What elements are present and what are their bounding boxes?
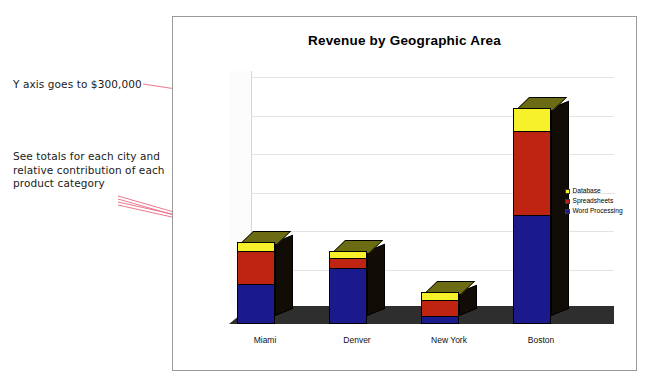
legend-item-spreadsheets[interactable]: Spreadsheets bbox=[565, 197, 623, 206]
bar-new-york[interactable] bbox=[421, 292, 459, 324]
legend-item-database[interactable]: Database bbox=[565, 187, 623, 196]
plot-area bbox=[229, 71, 614, 340]
bar-side-face bbox=[367, 244, 385, 316]
gridline bbox=[251, 77, 614, 78]
category-label-boston: Boston bbox=[528, 335, 554, 345]
bar-segment-database[interactable] bbox=[330, 252, 366, 259]
annotation-y-axis-note: Y axis goes to $300,000 bbox=[13, 78, 163, 92]
bar-front-face bbox=[329, 251, 367, 324]
bar-segment-spreadsheets[interactable] bbox=[238, 252, 274, 285]
legend-label: Spreadsheets bbox=[573, 197, 614, 206]
bar-front-face bbox=[421, 292, 459, 324]
chart-legend: DatabaseSpreadsheetsWord Processing bbox=[565, 187, 623, 217]
bar-segment-spreadsheets[interactable] bbox=[514, 132, 550, 216]
bar-front-face bbox=[237, 242, 275, 324]
legend-label: Word Processing bbox=[573, 207, 623, 216]
chart-frame: Revenue by Geographic Area MiamiDenverNe… bbox=[172, 16, 637, 371]
legend-swatch-icon bbox=[565, 189, 570, 194]
bar-segment-database[interactable] bbox=[238, 243, 274, 253]
legend-label: Database bbox=[573, 187, 601, 196]
chart-title: Revenue by Geographic Area bbox=[173, 33, 636, 48]
bar-front-face bbox=[513, 108, 551, 324]
category-label-new-york: New York bbox=[431, 335, 467, 345]
bar-segment-database[interactable] bbox=[422, 293, 458, 302]
bar-denver[interactable] bbox=[329, 251, 367, 324]
bar-side-face bbox=[275, 234, 293, 316]
bar-segment-spreadsheets[interactable] bbox=[330, 259, 366, 270]
bar-segment-word-processing[interactable] bbox=[514, 216, 550, 323]
bar-segment-spreadsheets[interactable] bbox=[422, 301, 458, 317]
bar-segment-word-processing[interactable] bbox=[422, 317, 458, 323]
bar-segment-database[interactable] bbox=[514, 109, 550, 132]
bar-boston[interactable] bbox=[513, 108, 551, 324]
bar-miami[interactable] bbox=[237, 242, 275, 324]
category-label-miami: Miami bbox=[254, 335, 277, 345]
bar-segment-word-processing[interactable] bbox=[330, 269, 366, 323]
legend-swatch-icon bbox=[565, 209, 570, 214]
legend-item-word-processing[interactable]: Word Processing bbox=[565, 207, 623, 216]
annotation-totals-note: See totals for each city and relative co… bbox=[13, 150, 169, 191]
legend-swatch-icon bbox=[565, 199, 570, 204]
bar-segment-word-processing[interactable] bbox=[238, 285, 274, 323]
category-label-denver: Denver bbox=[343, 335, 370, 345]
